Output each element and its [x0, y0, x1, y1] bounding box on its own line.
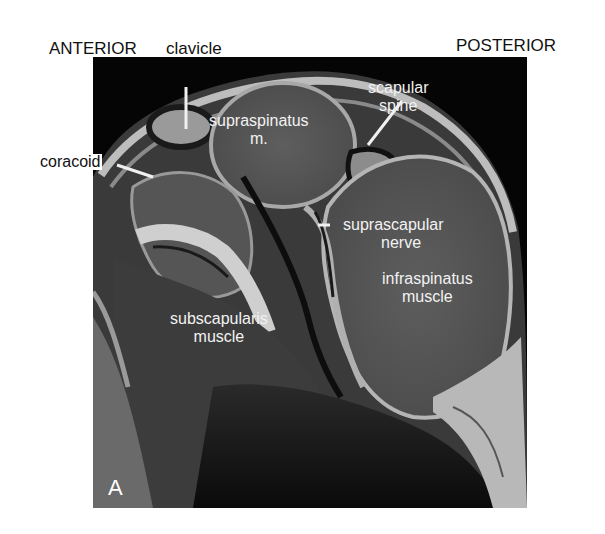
- suprascapular-nerve-label: suprascapular nerve: [343, 216, 444, 251]
- subscapularis-label-line2: muscle: [170, 328, 268, 346]
- posterior-label: POSTERIOR: [456, 37, 556, 54]
- clavicle-label: clavicle: [166, 40, 222, 57]
- suprascapular-nerve-label-line1: suprascapular: [343, 216, 444, 234]
- panel-letter: A: [108, 475, 123, 501]
- mri-image: supraspinatus m. scapular spine suprasca…: [93, 57, 527, 508]
- coracoid-label: coracoid: [38, 154, 102, 170]
- infraspinatus-label: infraspinatus muscle: [382, 270, 473, 305]
- scapular-spine-label-line2: spine: [368, 97, 428, 115]
- infraspinatus-label-line1: infraspinatus: [382, 270, 473, 288]
- scapular-spine-label-line1: scapular: [368, 79, 428, 97]
- suprascapular-nerve-label-line2: nerve: [343, 234, 444, 252]
- supraspinatus-label: supraspinatus m.: [209, 112, 309, 147]
- subscapularis-label: subscapularis muscle: [170, 310, 268, 345]
- supraspinatus-label-line2: m.: [209, 130, 309, 148]
- anterior-label: ANTERIOR: [49, 40, 137, 57]
- supraspinatus-label-line1: supraspinatus: [209, 112, 309, 130]
- scapular-spine-label: scapular spine: [368, 79, 428, 114]
- subscapularis-label-line1: subscapularis: [170, 310, 268, 328]
- infraspinatus-label-line2: muscle: [382, 288, 473, 306]
